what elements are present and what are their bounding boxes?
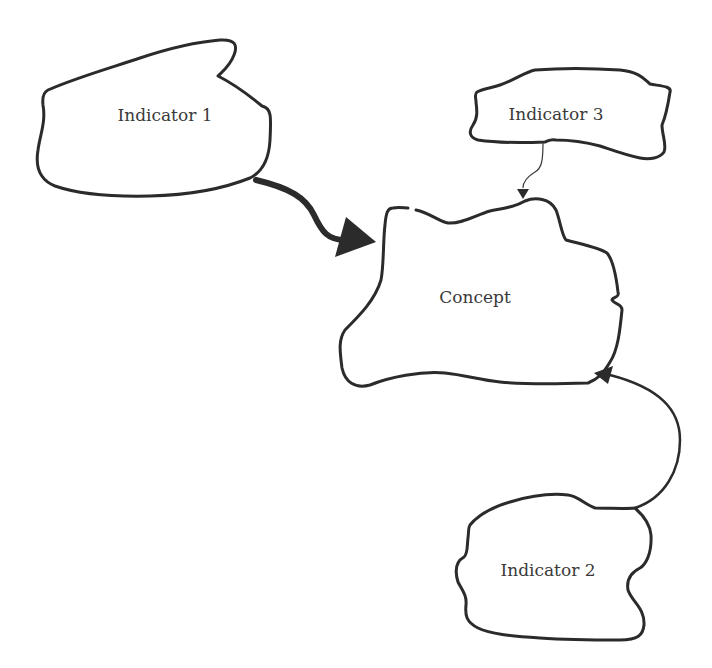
arrowhead-thin (517, 189, 529, 199)
arrow-indicator1-to-concept (256, 180, 345, 240)
arrow-indicator2-to-concept (610, 375, 680, 508)
indicator-2-label: Indicator 2 (500, 560, 595, 580)
concept-label: Concept (439, 287, 511, 307)
concept-diagram (0, 0, 712, 668)
arrowhead-thick (335, 217, 376, 257)
arrow-indicator3-to-concept (523, 142, 543, 188)
indicator-1-label: Indicator 1 (117, 105, 212, 125)
indicator-3-label: Indicator 3 (508, 104, 603, 124)
